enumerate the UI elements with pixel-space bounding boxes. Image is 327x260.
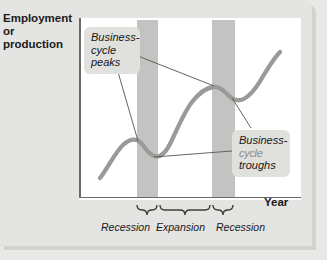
leader-line-trough-2	[154, 151, 232, 157]
callout-business-cycle-troughs: Business- cycle troughs	[232, 130, 290, 177]
leader-line-peak-2	[138, 56, 214, 86]
leader-line-peak-1	[118, 72, 138, 141]
business-cycle-figure: Employment or production Recession Expan…	[0, 0, 327, 260]
callout-peaks-line-1: Business-	[91, 31, 133, 44]
callout-business-cycle-peaks: Business- cycle peaks	[84, 27, 140, 74]
callout-peaks-line-3: peaks	[91, 56, 133, 69]
callout-troughs-line-3: troughs	[239, 159, 283, 172]
callout-troughs-line-1: Business-	[239, 134, 283, 147]
leader-line-trough-1	[232, 98, 251, 128]
callout-troughs-line-2: cycle	[239, 147, 283, 160]
callout-peaks-line-2: cycle	[91, 44, 133, 57]
